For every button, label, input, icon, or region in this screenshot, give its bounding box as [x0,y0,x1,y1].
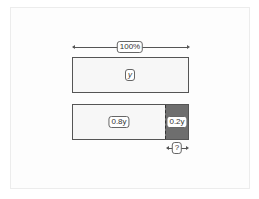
whole-bar-label: y [125,69,135,81]
percent-label: 100% [117,41,143,53]
left-segment-label: 0.8y [108,116,129,128]
diagram-card [10,7,250,189]
right-segment-label: 0.2y [166,116,187,128]
question-label: ? [172,142,182,154]
